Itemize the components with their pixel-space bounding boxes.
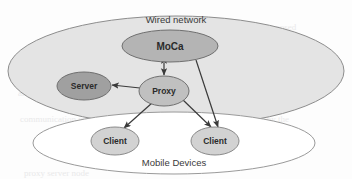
node-client-right[interactable]: Client <box>191 127 239 155</box>
network-architecture-diagram: the proposed system provides architectur… <box>0 0 352 179</box>
node-proxy-label: Proxy <box>152 86 176 96</box>
group-mobile-devices-label: Mobile Devices <box>142 157 207 168</box>
group-wired-network-label: Wired network <box>146 14 207 25</box>
node-server-label: Server <box>71 81 98 91</box>
node-client-right-label: Client <box>203 136 227 146</box>
node-server[interactable]: Server <box>57 72 111 100</box>
node-client-left[interactable]: Client <box>91 127 139 155</box>
node-moca[interactable]: MoCa <box>122 30 218 62</box>
node-moca-label: MoCa <box>156 41 184 52</box>
svg-text:proxy server node: proxy server node <box>24 168 89 178</box>
diagram-canvas: the proposed system provides architectur… <box>0 0 352 179</box>
node-client-left-label: Client <box>103 136 127 146</box>
node-proxy[interactable]: Proxy <box>139 76 189 106</box>
